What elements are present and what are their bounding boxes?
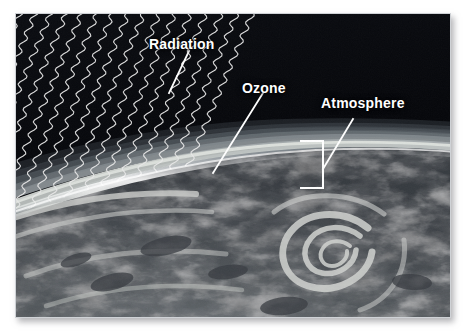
photo-canvas (16, 14, 450, 317)
film-grain-overlay (16, 14, 450, 317)
ozone-atmosphere-diagram: Radiation Ozone Atmosphere (0, 0, 465, 333)
satellite-photograph: Radiation Ozone Atmosphere (15, 13, 451, 318)
